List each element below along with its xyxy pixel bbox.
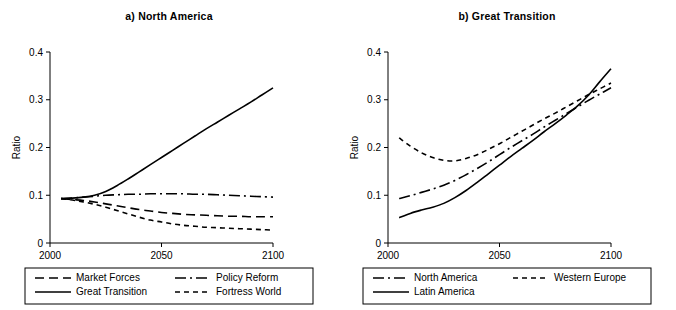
plot-area-great-transition: 00.10.20.30.4200020502100RatioNorth Amer… xyxy=(338,0,676,310)
legend-label: Fortress World xyxy=(216,286,281,297)
series-line-great-transition xyxy=(61,88,273,199)
y-tick-label: 0.1 xyxy=(29,190,43,201)
x-tick-label: 2050 xyxy=(150,250,173,261)
legend-label: Western Europe xyxy=(554,272,627,283)
series-line-market-forces xyxy=(61,199,273,217)
legend-label: North America xyxy=(414,272,478,283)
x-tick-label: 2100 xyxy=(262,250,285,261)
legend-label: Great Transition xyxy=(76,286,147,297)
legend-label: Policy Reform xyxy=(216,272,278,283)
y-tick-label: 0.4 xyxy=(29,47,43,58)
series-line-fortress-world xyxy=(61,199,273,231)
x-tick-label: 2000 xyxy=(39,250,62,261)
panel-great-transition: b) Great Transition 00.10.20.30.42000205… xyxy=(338,0,676,310)
y-tick-label: 0 xyxy=(37,238,43,249)
y-axis-title: Ratio xyxy=(11,135,22,159)
y-tick-label: 0.2 xyxy=(29,142,43,153)
series-line-western-europe xyxy=(399,83,611,161)
y-tick-label: 0.2 xyxy=(367,142,381,153)
legend-label: Latin America xyxy=(414,286,475,297)
x-tick-label: 2100 xyxy=(600,250,623,261)
y-tick-label: 0.4 xyxy=(367,47,381,58)
legend-label: Market Forces xyxy=(76,272,140,283)
y-axis-title: Ratio xyxy=(349,135,360,159)
x-tick-label: 2050 xyxy=(488,250,511,261)
y-tick-label: 0.3 xyxy=(367,94,381,105)
series-line-latin-america xyxy=(399,69,611,218)
panel-north-america: a) North America 00.10.20.30.42000205021… xyxy=(0,0,338,310)
y-tick-label: 0.1 xyxy=(367,190,381,201)
plot-area-north-america: 00.10.20.30.4200020502100RatioMarket For… xyxy=(0,0,338,310)
y-tick-label: 0 xyxy=(375,238,381,249)
figure-two-panel-line-charts: a) North America 00.10.20.30.42000205021… xyxy=(0,0,676,310)
y-tick-label: 0.3 xyxy=(29,94,43,105)
x-tick-label: 2000 xyxy=(377,250,400,261)
